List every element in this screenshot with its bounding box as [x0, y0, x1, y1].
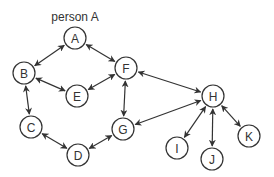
node-f: F — [115, 57, 137, 79]
edge-e-f — [88, 74, 114, 89]
node-c: C — [20, 116, 42, 138]
edge-b-e — [36, 78, 65, 91]
nodes: ABCDEFGHIJK — [13, 27, 260, 170]
node-label: D — [74, 149, 83, 163]
node-e: E — [66, 85, 88, 107]
edge-a-b — [35, 45, 65, 65]
node-label: J — [209, 153, 215, 167]
node-i: I — [166, 137, 188, 159]
node-label: G — [118, 123, 127, 137]
node-label: H — [209, 90, 218, 104]
edge-c-d — [42, 134, 67, 149]
node-g: G — [112, 118, 134, 140]
node-label: I — [175, 142, 178, 156]
node-label: K — [245, 130, 253, 144]
node-a: A — [64, 27, 86, 49]
node-label: E — [73, 90, 81, 104]
node-label: F — [122, 62, 129, 76]
edge-h-j — [212, 109, 213, 146]
edge-a-f — [86, 45, 115, 62]
edge-h-k — [222, 106, 241, 127]
edge-f-g — [124, 81, 126, 116]
node-j: J — [201, 148, 223, 170]
edge-g-h — [135, 100, 201, 124]
node-label: C — [27, 121, 36, 135]
node-label: A — [71, 32, 79, 46]
node-h: H — [202, 85, 224, 107]
person-a-caption: person A — [51, 10, 98, 24]
edge-h-i — [184, 107, 205, 138]
social-network-diagram: person A ABCDEFGHIJK — [0, 0, 274, 177]
node-label: B — [20, 67, 28, 81]
edge-f-h — [138, 72, 200, 92]
node-d: D — [67, 144, 89, 166]
node-k: K — [238, 125, 260, 147]
edge-d-g — [89, 136, 111, 149]
node-b: B — [13, 62, 35, 84]
edge-b-c — [26, 86, 30, 114]
